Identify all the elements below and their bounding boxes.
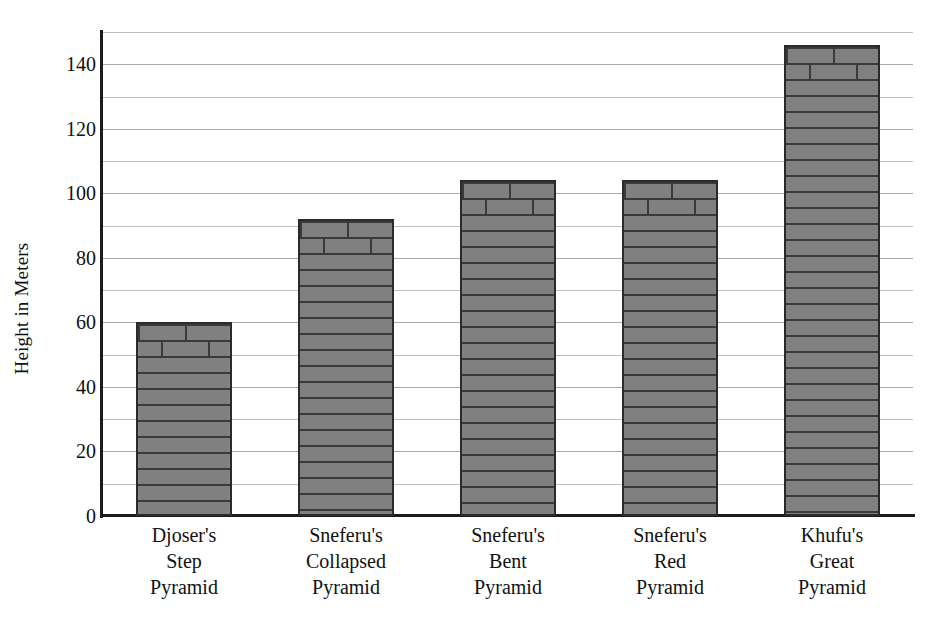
y-axis-tick-label: 0 <box>86 505 96 528</box>
x-axis-category-label: Sneferu'sRedPyramid <box>589 522 751 600</box>
bar-chart: Height in Meters 020406080100120140 Djos… <box>0 0 936 617</box>
y-axis-tick-label: 40 <box>76 375 96 398</box>
category-label-line: Sneferu's <box>589 522 751 548</box>
category-label-line: Pyramid <box>427 574 589 600</box>
y-axis-tick-label: 100 <box>66 182 96 205</box>
x-axis-category-labels: Djoser'sStepPyramidSneferu'sCollapsedPyr… <box>103 522 913 617</box>
category-label-line: Red <box>589 548 751 574</box>
bar <box>136 322 232 516</box>
category-label-line: Pyramid <box>589 574 751 600</box>
x-axis-category-label: Djoser'sStepPyramid <box>103 522 265 600</box>
bar <box>784 45 880 516</box>
y-axis-title: Height in Meters <box>0 0 44 617</box>
bar <box>298 219 394 516</box>
y-axis-tick-labels: 020406080100120140 <box>40 0 96 617</box>
x-axis-category-label: Sneferu'sBentPyramid <box>427 522 589 600</box>
bar <box>460 180 556 516</box>
category-label-line: Step <box>103 548 265 574</box>
category-label-line: Sneferu's <box>427 522 589 548</box>
bar <box>622 180 718 516</box>
x-axis-category-label: Sneferu'sCollapsedPyramid <box>265 522 427 600</box>
category-label-line: Pyramid <box>103 574 265 600</box>
y-axis-tick-label: 120 <box>66 117 96 140</box>
y-axis-tick-label: 60 <box>76 311 96 334</box>
category-label-line: Bent <box>427 548 589 574</box>
category-label-line: Sneferu's <box>265 522 427 548</box>
category-label-line: Pyramid <box>751 574 913 600</box>
category-label-line: Khufu's <box>751 522 913 548</box>
x-axis-category-label: Khufu'sGreatPyramid <box>751 522 913 600</box>
category-label-line: Collapsed <box>265 548 427 574</box>
category-label-line: Great <box>751 548 913 574</box>
bars-layer <box>103 32 913 516</box>
y-axis-tick-label: 20 <box>76 440 96 463</box>
y-axis-tick-label: 80 <box>76 246 96 269</box>
category-label-line: Djoser's <box>103 522 265 548</box>
category-label-line: Pyramid <box>265 574 427 600</box>
y-axis-tick-label: 140 <box>66 53 96 76</box>
